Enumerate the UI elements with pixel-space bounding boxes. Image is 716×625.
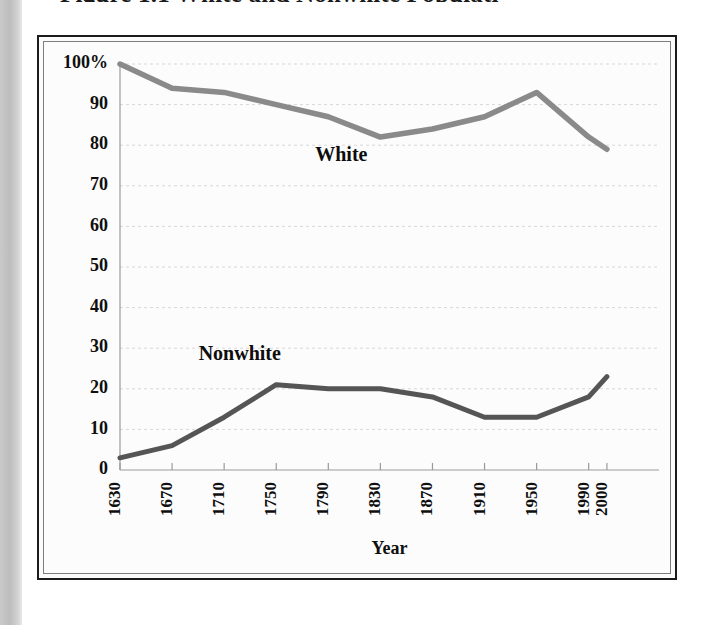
gridlines-group: [120, 64, 659, 429]
y-tick-label-20: 20: [90, 377, 108, 397]
y-tick-label-30: 30: [90, 336, 108, 356]
y-axis-tick-labels: 100%9080706050403020100: [63, 52, 108, 478]
x-tick-label-1750: 1750: [261, 482, 280, 516]
series-line-white: [120, 64, 607, 149]
x-tick-label-1630: 1630: [105, 482, 124, 516]
figure-title: Figure 1.1 White and Nonwhite Population: [60, 0, 500, 2]
y-tick-label-70: 70: [90, 174, 108, 194]
chart-frame: 100%9080706050403020100 1630167017101750…: [37, 35, 677, 580]
series-label-nonwhite: Nonwhite: [199, 342, 281, 364]
y-tick-label-50: 50: [90, 255, 108, 275]
x-tick-label-1790: 1790: [313, 482, 332, 516]
x-axis-tick-labels: 1630167017101750179018301870191019501990…: [105, 482, 611, 516]
y-tick-label-80: 80: [90, 133, 108, 153]
x-tick-label-1830: 1830: [365, 482, 384, 516]
x-tick-label-1870: 1870: [417, 482, 436, 516]
x-tick-label-1670: 1670: [157, 482, 176, 516]
x-tick-label-1910: 1910: [470, 482, 489, 516]
y-tick-label-60: 60: [90, 215, 108, 235]
x-tick-label-1710: 1710: [209, 482, 228, 516]
population-line-chart: 100%9080706050403020100 1630167017101750…: [39, 37, 679, 582]
y-tick-label-40: 40: [90, 296, 108, 316]
series-inline-labels: WhiteNonwhite: [199, 143, 368, 364]
y-tick-label-100%: 100%: [63, 52, 108, 72]
x-tick-label-2000: 2000: [592, 482, 611, 516]
x-axis-title-group: Year: [372, 538, 408, 558]
x-tick-label-1990: 1990: [574, 482, 593, 516]
x-axis-title: Year: [372, 538, 408, 558]
data-series-group: [120, 64, 607, 458]
y-tick-label-0: 0: [99, 458, 108, 478]
y-tick-label-90: 90: [90, 93, 108, 113]
page-gutter-strip: [0, 0, 22, 625]
x-tick-label-1950: 1950: [522, 482, 541, 516]
series-label-white: White: [315, 143, 367, 165]
y-tick-label-10: 10: [90, 418, 108, 438]
